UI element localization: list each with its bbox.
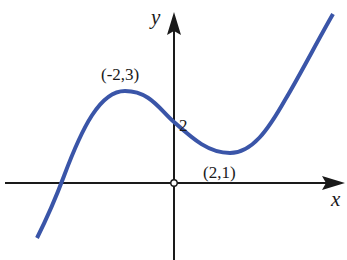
- y-intercept-label: 2: [179, 116, 188, 135]
- y-axis-label: y: [149, 5, 161, 29]
- max-point-label: (-2,3): [101, 65, 139, 84]
- x-axis-label: x: [330, 187, 341, 211]
- origin-marker: [171, 180, 177, 186]
- function-graph: y x (-2,3) 2 (2,1): [0, 0, 347, 260]
- min-point-label: (2,1): [203, 163, 236, 182]
